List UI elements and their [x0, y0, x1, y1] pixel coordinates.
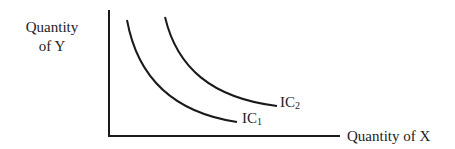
- y-axis-label-line1: Quantity: [6, 18, 98, 37]
- ic1-label-subscript: 1: [257, 116, 262, 127]
- y-axis-label: Quantity of Y: [6, 18, 98, 56]
- x-axis-label: Quantity of X: [347, 127, 430, 145]
- ic2-label-subscript: 2: [295, 100, 300, 111]
- ic1-label: IC1: [242, 109, 262, 127]
- indifference-curve-1: [127, 20, 237, 122]
- indifference-curve-diagram: Quantity of Y Quantity of X IC1 IC2: [0, 0, 455, 149]
- ic2-label-name: IC: [280, 94, 295, 110]
- indifference-curve-2: [165, 17, 277, 106]
- ic1-label-name: IC: [242, 110, 257, 126]
- y-axis-label-line2: of Y: [6, 37, 98, 56]
- ic2-label: IC2: [280, 93, 300, 111]
